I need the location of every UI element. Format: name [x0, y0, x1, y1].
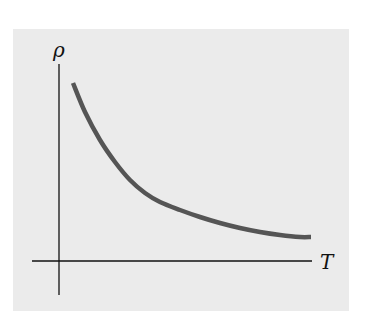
density-curve [73, 83, 311, 237]
x-axis-label: T [320, 250, 335, 274]
y-axis-label: ρ [52, 38, 65, 62]
chart: ρ T [0, 0, 367, 320]
